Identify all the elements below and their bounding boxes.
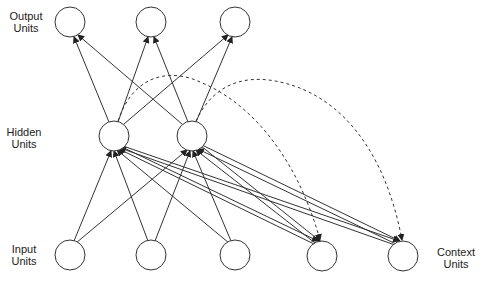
- input-unit-3: [220, 240, 250, 270]
- input-label-line1: Input: [6, 243, 42, 255]
- output-unit-1: [55, 7, 85, 37]
- output-label-line2: Units: [6, 22, 46, 34]
- input-units: [55, 240, 250, 270]
- hidden-label-line2: Units: [4, 138, 44, 150]
- simple-recurrent-network-diagram: [0, 0, 484, 281]
- output-units-label: Output Units: [6, 10, 46, 34]
- hidden-units: [99, 121, 207, 151]
- context-label-line1: Context: [434, 246, 478, 258]
- output-label-line1: Output: [6, 10, 46, 22]
- hidden-label-line1: Hidden: [4, 126, 44, 138]
- hidden-to-hidden-context-links: [122, 145, 400, 241]
- hidden-units-label: Hidden Units: [4, 126, 44, 150]
- context-unit-2: [388, 241, 418, 271]
- output-unit-2: [136, 7, 166, 37]
- input-unit-1: [55, 240, 85, 270]
- output-units: [55, 7, 250, 37]
- input-unit-2: [136, 240, 166, 270]
- context-units: [307, 241, 418, 271]
- hidden-unit-1: [99, 121, 129, 151]
- context-units-label: Context Units: [434, 246, 478, 270]
- recurrent-copy-connections: [118, 75, 402, 240]
- context-label-line2: Units: [434, 258, 478, 270]
- output-unit-3: [220, 7, 250, 37]
- input-label-line2: Units: [6, 255, 42, 267]
- input-units-label: Input Units: [6, 243, 42, 267]
- hidden-to-output-connections: [74, 35, 232, 124]
- input-to-hidden-connections: [74, 148, 396, 245]
- context-unit-1: [307, 241, 337, 271]
- hidden-unit-2: [177, 121, 207, 151]
